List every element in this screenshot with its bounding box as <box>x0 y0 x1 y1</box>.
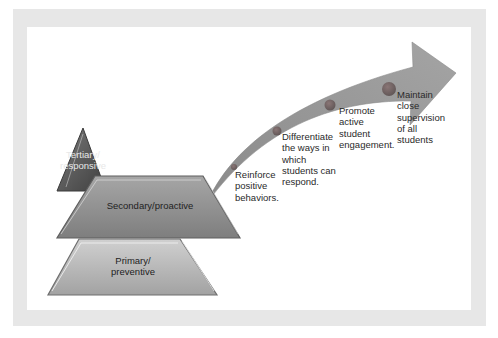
tier-secondary-label: Secondary/proactive <box>95 200 205 211</box>
step-marker-4 <box>382 82 396 96</box>
tier-tertiary-label: Tertiary/ responsive <box>58 149 108 171</box>
step-label-4: Maintain close supervision of all studen… <box>397 89 445 145</box>
step-label-1: Reinforce positive behaviors. <box>235 169 279 203</box>
step-marker-3 <box>325 100 336 111</box>
step-label-2: Differentiate the ways in which students… <box>282 131 336 187</box>
step-label-3: Promote active student engagement. <box>339 105 394 150</box>
step-marker-2 <box>273 127 282 136</box>
tier-primary-label: Primary/ preventive <box>98 255 168 277</box>
